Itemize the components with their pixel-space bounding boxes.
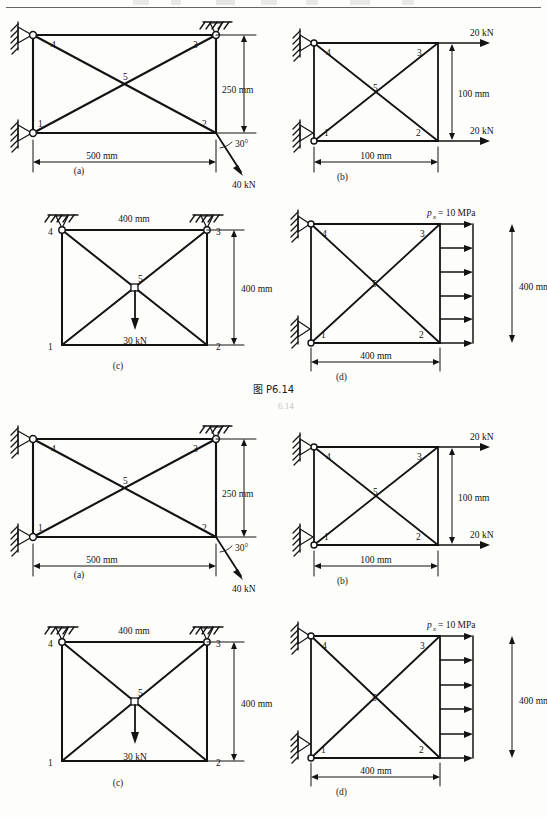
- figure-caption-d: (d): [208, 787, 475, 797]
- figure-caption-b: (b): [210, 172, 475, 182]
- dimension-height-c: [207, 642, 244, 761]
- dimension-label-width-c: 400 mm: [118, 214, 150, 224]
- dimension-label-width-a: 500 mm: [86, 555, 118, 565]
- node-pin-1: [311, 542, 317, 548]
- node-label-5: 5: [138, 274, 143, 284]
- node-label-2: 2: [416, 128, 421, 138]
- node-label-4: 4: [48, 639, 53, 649]
- header-rule: [6, 7, 541, 8]
- load-label-bottom-20kn: 20 kN: [470, 126, 494, 136]
- figure-b-repeat: 4 3 5 1 2 20 kN 20 kN 100 mm 100 mm (b): [282, 418, 547, 593]
- node-label-5: 5: [372, 693, 377, 703]
- node-label-2: 2: [202, 119, 207, 129]
- node-pin-4: [311, 40, 317, 46]
- node-label-3: 3: [417, 48, 422, 58]
- wall-support-lower-left: [293, 524, 313, 556]
- node-pin-4: [308, 633, 314, 639]
- node-label-2: 2: [216, 758, 221, 768]
- load-arrow-30kn: [131, 705, 139, 744]
- dimension-label-height-a: 250 mm: [222, 489, 254, 499]
- node-label-4: 4: [51, 40, 56, 50]
- dimension-height-c: [207, 230, 244, 345]
- node-label-3: 3: [216, 639, 221, 649]
- wall-support-upper-left: [291, 210, 310, 242]
- dimension-label-height-c: 400 mm: [241, 284, 273, 294]
- figure-c-repeat: 4 3 5 1 2 400 mm 400 mm 30 kN (c): [30, 608, 280, 793]
- load-arrow-top-20kn: [438, 443, 490, 451]
- node-label-3: 3: [193, 40, 198, 50]
- load-label-top-20kn: 20 kN: [470, 432, 494, 442]
- node-label-3: 3: [193, 444, 198, 454]
- node-label-2: 2: [216, 342, 221, 352]
- load-label-30kn: 30 kN: [123, 752, 147, 762]
- node-label-1: 1: [324, 128, 329, 138]
- figure-caption-c: (c): [0, 361, 243, 371]
- node-label-1: 1: [324, 532, 329, 542]
- truss-members-a: [33, 35, 216, 133]
- pressure-arrows: [440, 633, 473, 762]
- node-pin-1: [308, 755, 314, 761]
- node-label-2: 2: [419, 745, 424, 755]
- dimension-label-width-c: 400 mm: [118, 626, 150, 636]
- figure-b: 4 3 5 1 2 20 kN 20 kN 100 mm 100 mm (b): [282, 14, 547, 189]
- node-pin-1: [308, 340, 314, 346]
- node-pin-1: [311, 138, 317, 144]
- node-label-3: 3: [216, 227, 221, 237]
- wall-support-lower-left: [291, 731, 310, 763]
- wall-support-lower-left: [11, 524, 32, 556]
- load-label-bottom-20kn: 20 kN: [470, 530, 494, 540]
- pressure-value: = 10 MPa: [438, 208, 476, 218]
- plate-caption: 图 P6.14: [0, 381, 547, 396]
- dimension-height-b: [449, 44, 455, 140]
- node-label-2: 2: [419, 330, 424, 340]
- node-pin-1: [30, 130, 37, 137]
- dimension-label-width-d: 400 mm: [360, 351, 392, 361]
- wall-support-lower-left: [293, 120, 313, 152]
- node-label-4: 4: [322, 229, 327, 239]
- pressure-symbol: p: [426, 620, 432, 630]
- dimension-height-d: [509, 636, 515, 758]
- node-label-5: 5: [373, 487, 378, 497]
- scanned-textbook-page: 4 3 5 1 2 250 mm 500 mm 30° 40 kN (a): [0, 0, 547, 817]
- wall-support-upper-left: [293, 433, 313, 465]
- figure-caption-b: (b): [210, 576, 475, 586]
- node-label-4: 4: [326, 48, 331, 58]
- node-pin-5: [131, 698, 138, 705]
- angle-label-30: 30°: [235, 543, 249, 553]
- node-label-1: 1: [321, 745, 326, 755]
- node-pin-4: [311, 444, 317, 450]
- load-label-top-20kn: 20 kN: [470, 28, 494, 38]
- pressure-symbol: p: [426, 208, 432, 218]
- figure-a-repeat: 4 3 5 1 2 250 mm 500 mm 30° 40 kN (a): [4, 418, 274, 593]
- load-arrow-bottom-20kn: [438, 541, 490, 549]
- figure-caption-c: (c): [0, 778, 243, 788]
- node-label-1: 1: [48, 342, 53, 352]
- node-pin-4: [308, 221, 314, 227]
- node-label-4: 4: [326, 452, 331, 462]
- wall-support-upper-left: [291, 622, 310, 654]
- header-ghost-text: [120, 0, 440, 5]
- node-label-2: 2: [202, 523, 207, 533]
- dimension-label-width-b: 100 mm: [360, 151, 392, 161]
- node-label-5: 5: [123, 72, 128, 82]
- figure-a: 4 3 5 1 2 250 mm 500 mm 30° 40 kN (a): [4, 14, 274, 189]
- figure-d-repeat: 4 3 5 1 2 400 mm 400 mm p x = 10 MPa (d): [280, 608, 547, 793]
- angle-label-30: 30°: [235, 139, 249, 149]
- node-pin-4: [30, 436, 37, 443]
- node-label-1: 1: [38, 523, 43, 533]
- load-arrow-bottom-20kn: [438, 137, 490, 145]
- dimension-height-a: [216, 35, 256, 133]
- dimension-label-height-d: 400 mm: [519, 282, 547, 292]
- dimension-label-width-a: 500 mm: [86, 151, 118, 161]
- node-label-1: 1: [38, 119, 43, 129]
- dimension-label-width-d: 400 mm: [360, 766, 392, 776]
- node-label-5: 5: [123, 476, 128, 486]
- figure-caption-a: (a): [0, 166, 214, 176]
- dimension-label-height-c: 400 mm: [241, 699, 273, 709]
- dimension-label-height-b: 100 mm: [458, 89, 490, 99]
- pressure-subscript: x: [432, 625, 437, 633]
- node-pin-5: [131, 284, 138, 291]
- dimension-height-b: [449, 448, 455, 544]
- wall-support-upper-left: [11, 426, 32, 458]
- node-pin-4: [59, 639, 65, 645]
